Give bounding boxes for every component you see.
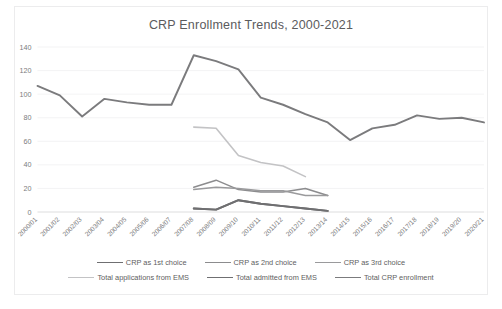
y-tick-label: 0	[28, 208, 32, 217]
x-tick-label: 2008/09	[195, 216, 217, 238]
x-tick-label: 2003/04	[83, 216, 105, 238]
x-tick-label: 2015/16	[351, 216, 373, 238]
legend-line-swatch	[315, 262, 341, 263]
legend-line-swatch	[207, 277, 233, 278]
x-axis-tick-labels: 2000/012001/022002/032003/042004/052005/…	[16, 216, 485, 238]
x-tick-label: 2012/13	[284, 216, 306, 238]
legend-row-secondary: Total applications from EMSTotal admitte…	[14, 270, 488, 285]
x-tick-label: 2006/07	[150, 216, 172, 238]
x-tick-label: 2004/05	[106, 216, 128, 238]
legend-line-swatch	[97, 262, 123, 263]
x-tick-label: 2011/12	[262, 216, 284, 238]
legend-item[interactable]: CRP as 2nd choice	[205, 258, 297, 267]
legend-line-swatch	[335, 277, 361, 278]
series-line	[38, 55, 485, 140]
legend-label: Total CRP enrollment	[364, 273, 434, 282]
x-tick-label: 2010/11	[240, 216, 262, 238]
legend-row-primary: CRP as 1st choiceCRP as 2nd choiceCRP as…	[14, 255, 488, 270]
legend-item[interactable]: Total admitted from EMS	[207, 273, 317, 282]
gridlines-group	[38, 47, 485, 212]
x-tick-label: 2014/15	[329, 216, 351, 238]
legend-line-swatch	[205, 262, 231, 263]
y-tick-label: 20	[24, 184, 32, 193]
legend-label: Total admitted from EMS	[236, 273, 317, 282]
x-tick-label: 2018/19	[418, 216, 440, 238]
legend-label: CRP as 2nd choice	[234, 258, 297, 267]
y-tick-label: 100	[20, 90, 32, 99]
y-tick-label: 120	[20, 66, 32, 75]
chart-legend: CRP as 1st choiceCRP as 2nd choiceCRP as…	[14, 255, 488, 295]
x-tick-label: 2002/03	[61, 216, 83, 238]
legend-label: Total applications from EMS	[97, 273, 189, 282]
x-tick-label: 2001/02	[39, 216, 61, 238]
y-tick-label: 40	[24, 160, 32, 169]
x-tick-label: 2016/17	[374, 216, 396, 238]
series-line	[194, 127, 306, 177]
x-tick-label: 2000/01	[16, 216, 38, 238]
chart-container: CRP Enrollment Trends, 2000-2021 0204060…	[0, 0, 502, 309]
legend-line-swatch	[68, 277, 94, 278]
legend-item[interactable]: Total CRP enrollment	[335, 273, 434, 282]
x-tick-label: 2019/20	[441, 216, 463, 238]
legend-item[interactable]: CRP as 1st choice	[97, 258, 187, 267]
data-series-group	[38, 55, 485, 211]
y-tick-label: 60	[24, 137, 32, 146]
y-axis-tick-labels: 020406080100120140	[20, 43, 32, 217]
x-tick-label: 2013/14	[307, 216, 329, 238]
legend-item[interactable]: CRP as 3rd choice	[315, 258, 405, 267]
x-tick-label: 2007/08	[173, 216, 195, 238]
legend-item[interactable]: Total applications from EMS	[68, 273, 189, 282]
y-tick-label: 80	[24, 113, 32, 122]
x-tick-label: 2017/18	[396, 216, 418, 238]
legend-label: CRP as 1st choice	[126, 258, 187, 267]
y-tick-label: 140	[20, 43, 32, 52]
x-tick-label: 2005/06	[128, 216, 150, 238]
legend-label: CRP as 3rd choice	[344, 258, 405, 267]
x-tick-label: 2009/10	[217, 216, 239, 238]
series-line	[194, 200, 328, 211]
x-tick-label: 2020/21	[463, 216, 485, 238]
